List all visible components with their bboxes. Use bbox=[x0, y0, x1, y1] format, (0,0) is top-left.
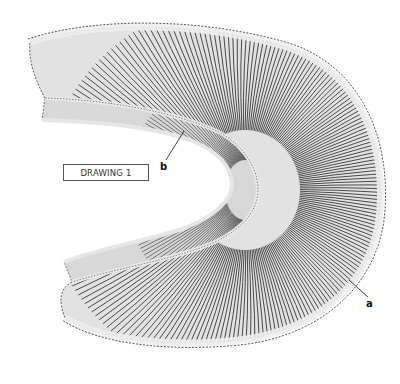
caption-text: DRAWING 1 bbox=[80, 168, 131, 178]
label-a: a bbox=[366, 298, 373, 309]
horseshoe-structure-illustration bbox=[0, 0, 400, 384]
drawing-figure: DRAWING 1 b a bbox=[0, 0, 400, 384]
figure-caption: DRAWING 1 bbox=[63, 164, 149, 181]
label-b: b bbox=[160, 161, 167, 172]
